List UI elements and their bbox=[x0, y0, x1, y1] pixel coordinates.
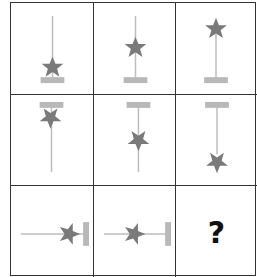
bar bbox=[124, 77, 148, 83]
bar bbox=[165, 222, 171, 246]
bar bbox=[204, 77, 228, 83]
bar bbox=[40, 102, 64, 108]
pin-figure bbox=[11, 3, 93, 94]
cell-r2-c1 bbox=[11, 95, 94, 186]
puzzle-grid: ? bbox=[10, 2, 256, 276]
cell-r2-c3 bbox=[176, 95, 257, 186]
pin-figure bbox=[176, 3, 257, 94]
bar bbox=[127, 102, 151, 108]
pin-figure bbox=[176, 95, 257, 185]
cell-r1-c2 bbox=[94, 3, 176, 95]
cell-r3-c3-answer[interactable]: ? bbox=[176, 186, 257, 277]
question-mark: ? bbox=[176, 214, 257, 249]
pin-figure bbox=[94, 95, 175, 185]
bar bbox=[41, 77, 65, 83]
bar bbox=[83, 222, 89, 246]
pin-figure bbox=[11, 186, 93, 277]
cell-r2-c2 bbox=[94, 95, 176, 186]
pin-figure bbox=[94, 3, 175, 94]
star-icon bbox=[206, 153, 228, 173]
cell-r1-c1 bbox=[11, 3, 94, 95]
pin-figure bbox=[11, 95, 93, 185]
star-icon bbox=[40, 108, 62, 128]
cell-r3-c1 bbox=[11, 186, 94, 277]
pin-figure bbox=[94, 186, 175, 277]
cell-r1-c3 bbox=[176, 3, 257, 95]
bar bbox=[205, 102, 229, 108]
cell-r3-c2 bbox=[94, 186, 176, 277]
